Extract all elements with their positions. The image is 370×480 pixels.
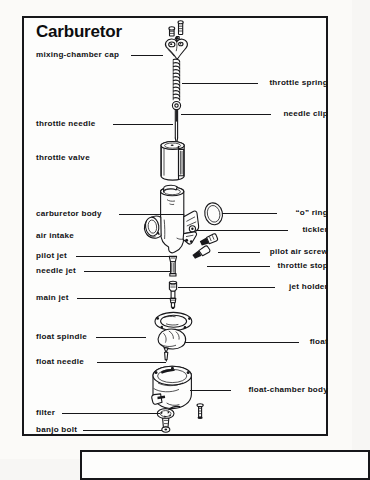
- label-needle-jet: needle jet: [36, 267, 76, 275]
- label-throttle-spring: throttle spring: [269, 79, 328, 87]
- banjo-bolt-part: [162, 418, 170, 432]
- leader-float-chamber-body: [190, 390, 231, 391]
- float-part: [158, 329, 185, 352]
- float-chamber-body-part: [152, 366, 192, 408]
- label-float: float: [310, 338, 328, 346]
- label-filter: filter: [36, 409, 55, 417]
- label-o-ring: “o” ring: [295, 209, 328, 217]
- pilot-air-screw-part: [200, 234, 218, 246]
- label-float-spindle: float spindle: [36, 333, 87, 341]
- needle-jet-part: [170, 262, 176, 276]
- leader-carburetor-body: [119, 214, 164, 215]
- label-jet-holder: jet holder: [289, 283, 328, 291]
- pilot-jet-part: [169, 256, 176, 261]
- label-air-intake: air intake: [36, 232, 74, 240]
- leader-needle-clip: [181, 114, 271, 115]
- label-banjo-bolt: banjo bolt: [36, 426, 77, 434]
- leader-banjo-bolt: [83, 430, 162, 431]
- leader-throttle-needle: [113, 124, 173, 125]
- leader-float: [185, 342, 299, 343]
- main-jet-part: [170, 298, 176, 309]
- leader-throttle-spring: [182, 83, 258, 84]
- leader-throttle-stop: [207, 266, 270, 267]
- leader-float-needle: [97, 362, 166, 363]
- leader-o-ring: [222, 213, 277, 214]
- leader-mixing-chamber-cap: [131, 55, 163, 56]
- leader-float-spindle: [96, 337, 146, 338]
- label-throttle-needle: throttle needle: [36, 120, 96, 128]
- leader-pilot-jet: [76, 256, 170, 257]
- label-carburetor-body: carburetor body: [36, 210, 102, 218]
- leader-main-jet: [77, 298, 170, 299]
- leader-tickler: [196, 230, 288, 231]
- label-float-chamber-body: float-chamber body: [248, 386, 328, 394]
- float-chamber-gasket-part: [155, 312, 192, 330]
- throttle-spring-part: [173, 59, 180, 100]
- label-mixing-chamber-cap: mixing-chamber cap: [36, 51, 119, 59]
- leader-pilot-air-screw: [218, 252, 260, 253]
- throttle-stop-screw-part: [192, 246, 210, 259]
- label-throttle-valve: throttle valve: [36, 154, 90, 162]
- label-main-jet: main jet: [36, 294, 69, 302]
- label-pilot-air-screw: pilot air screw: [270, 248, 328, 256]
- label-throttle-stop: throttle stop: [278, 262, 328, 270]
- drain-screw-part: [197, 404, 203, 419]
- throttle-valve-part: [161, 142, 184, 181]
- label-float-needle: float needle: [36, 358, 84, 366]
- label-needle-clip: needle clip: [283, 110, 328, 118]
- leader-jet-holder: [178, 287, 275, 288]
- label-pilot-jet: pilot jet: [36, 252, 67, 260]
- leader-needle-jet: [84, 271, 170, 272]
- jet-holder-part: [169, 281, 176, 298]
- label-tickler: tickler: [302, 226, 328, 234]
- needle-clip-part: [172, 102, 180, 122]
- leader-filter: [62, 413, 160, 414]
- carburetor-body-part: [144, 185, 198, 253]
